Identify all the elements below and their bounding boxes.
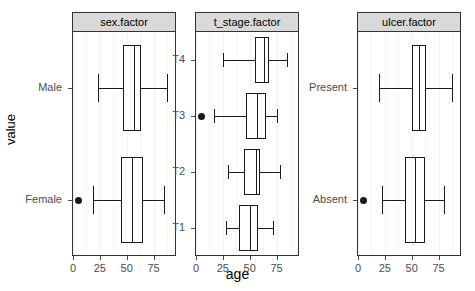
gridline-major [358,32,359,255]
median-line [419,45,420,131]
whisker-cap-high [273,221,274,236]
box-iqr [244,149,260,195]
y-tick-label: Female [0,193,62,205]
whisker-cap-low [214,109,215,124]
boxplot-figure: value age MaleFemalesex.factor0255075T4T… [0,0,475,291]
x-tick [439,256,440,260]
whisker-cap-high [287,53,288,68]
x-tick [223,256,224,260]
y-tick-label: T4 [71,53,185,65]
gridline-major [196,32,197,255]
whisker-cap-high [452,74,453,102]
gridline-minor [236,32,237,255]
outlier-point [360,197,367,204]
gridline-major [439,32,440,255]
y-tick-label: Absent [233,193,347,205]
whisker-cap-high [167,74,168,102]
gridline-minor [452,32,453,255]
whisker-cap-low [226,221,227,236]
x-tick-label: 25 [85,262,115,274]
facet-strip-label: t_stage.factor [195,12,299,32]
panel-body [357,32,461,256]
x-tick-label: 50 [235,262,265,274]
y-tick-label: T2 [71,165,185,177]
facet-sex.factor: sex.factor [72,12,176,256]
whisker-cap-low [98,74,99,102]
whisker-line [214,116,276,117]
whisker-cap-high [164,186,165,214]
x-tick-label: 25 [208,262,238,274]
gridline-minor [290,32,291,255]
x-tick-label: 75 [424,262,454,274]
y-tick-label: T3 [71,109,185,121]
x-tick-label: 50 [112,262,142,274]
x-tick [412,256,413,260]
x-tick-label: 0 [58,262,88,274]
whisker-cap-high [280,165,281,180]
gridline-minor [398,32,399,255]
median-line [256,149,257,195]
whisker-cap-high [277,109,278,124]
x-tick-label: 0 [181,262,211,274]
whisker-cap-low [228,165,229,180]
gridline-minor [209,32,210,255]
gridline-minor [371,32,372,255]
whisker-cap-low [93,186,94,214]
x-tick [358,256,359,260]
y-tick-label: Present [233,81,347,93]
facet-strip-label: sex.factor [72,12,176,32]
whisker-cap-high [444,186,445,214]
x-tick-label: 75 [139,262,169,274]
median-line [415,157,416,243]
facet-strip-label: ulcer.factor [357,12,461,32]
x-tick-label: 25 [370,262,400,274]
x-tick [277,256,278,260]
x-tick [154,256,155,260]
box-iqr [246,93,265,139]
x-tick-label: 75 [262,262,292,274]
x-tick [250,256,251,260]
median-line [250,205,251,251]
whisker-cap-low [223,53,224,68]
whisker-cap-low [379,74,380,102]
box-iqr [255,37,269,83]
x-tick [127,256,128,260]
y-tick-label: T1 [71,221,185,233]
x-tick [100,256,101,260]
x-tick [196,256,197,260]
x-tick-label: 50 [397,262,427,274]
x-tick [73,256,74,260]
median-line [264,37,265,83]
outlier-point [75,197,82,204]
x-tick-label: 0 [343,262,373,274]
panel-body [195,32,299,256]
facet-ulcer.factor: ulcer.factor [357,12,461,256]
x-tick [385,256,386,260]
box-iqr [239,205,258,251]
outlier-point [198,113,205,120]
gridline-major [385,32,386,255]
facet-t_stage.factor: t_stage.factor [195,12,299,256]
y-tick-label: Male [0,81,62,93]
whisker-cap-low [382,186,383,214]
y-axis-title: value [3,100,18,160]
gridline-major [277,32,278,255]
median-line [257,93,258,139]
